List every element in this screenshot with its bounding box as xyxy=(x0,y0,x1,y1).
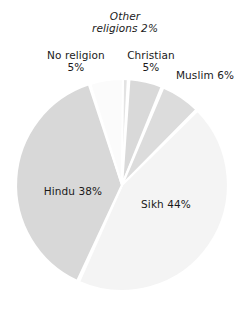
slice-label-no-religion-line2: 5% xyxy=(47,62,105,74)
slice-label-christian-line2: 5% xyxy=(127,62,175,74)
slice-label-hindu: Hindu 38% xyxy=(44,186,102,198)
slice-label-muslim: Muslim 6% xyxy=(176,70,234,82)
slice-label-christian-line1: Christian xyxy=(127,49,175,61)
slice-label-sikh: Sikh 44% xyxy=(141,199,191,211)
slice-label-no-religion-line1: No religion xyxy=(47,49,105,61)
pie-chart: Other religions 2% No religion 5% Christ… xyxy=(0,0,246,321)
slice-label-christian: Christian 5% xyxy=(127,50,175,73)
pie-chart-canvas xyxy=(0,0,246,321)
slice-label-other-religions-line2: religions 2% xyxy=(92,23,158,35)
slice-label-other-religions: Other religions 2% xyxy=(92,11,158,34)
slice-label-other-religions-line1: Other xyxy=(110,10,140,22)
slice-label-no-religion: No religion 5% xyxy=(47,50,105,73)
